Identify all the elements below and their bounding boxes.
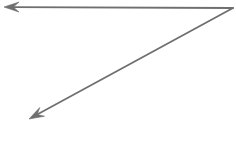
angle-figure-canvas (0, 0, 236, 142)
angle-diagram (0, 0, 236, 142)
horizontal-ray-line (12, 7, 233, 8)
